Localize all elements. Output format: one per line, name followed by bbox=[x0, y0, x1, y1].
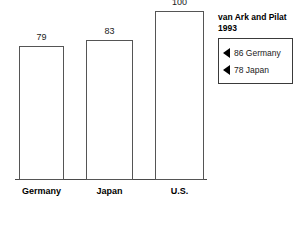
plot-area: 79 Germany 83 Japan 100 U.S. bbox=[0, 0, 215, 210]
legend-box: 86 Germany 78 Japan bbox=[218, 38, 293, 84]
bar-category-label: Japan bbox=[72, 186, 147, 197]
bar-group-us: 100 U.S. bbox=[155, 11, 204, 180]
legend-item-japan: 78 Japan bbox=[223, 64, 287, 76]
left-triangle-marker-icon bbox=[223, 48, 230, 58]
legend-item-label: 86 Germany bbox=[234, 47, 281, 59]
legend-item-germany: 86 Germany bbox=[223, 47, 287, 59]
bar-rect bbox=[86, 40, 133, 180]
bar-category-label: U.S. bbox=[141, 186, 218, 197]
bar-rect bbox=[155, 11, 204, 180]
bar-group-japan: 83 Japan bbox=[86, 40, 133, 180]
bar-group-germany: 79 Germany bbox=[19, 46, 64, 180]
bar-category-label: Germany bbox=[5, 186, 78, 197]
chart-legend: van Ark and Pilat 1993 86 Germany 78 Jap… bbox=[218, 12, 300, 84]
left-triangle-marker-icon bbox=[223, 65, 230, 75]
legend-title: van Ark and Pilat 1993 bbox=[218, 12, 300, 33]
bar-value-label: 83 bbox=[86, 26, 133, 36]
bar-value-label: 79 bbox=[19, 32, 64, 42]
bar-chart-figure: 79 Germany 83 Japan 100 U.S. van Ark and… bbox=[0, 0, 301, 230]
bar-rect bbox=[19, 46, 64, 180]
bar-value-label: 100 bbox=[155, 0, 204, 7]
legend-item-label: 78 Japan bbox=[234, 64, 269, 76]
